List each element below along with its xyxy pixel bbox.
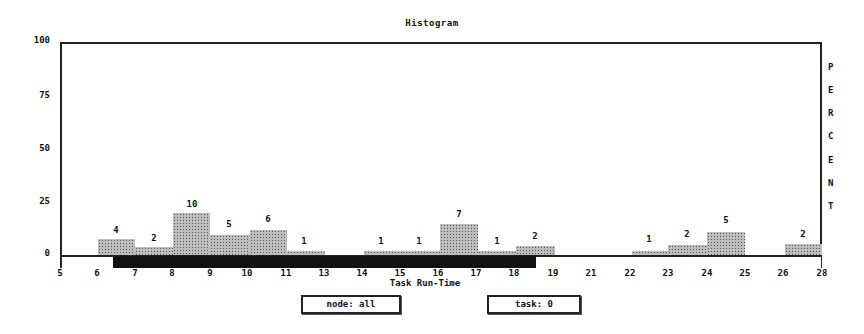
bar-count-label: 4: [97, 225, 135, 235]
histogram-bar: [440, 224, 478, 256]
x-tick: 13: [312, 268, 336, 278]
x-tick: 15: [388, 268, 412, 278]
ylabel-letter: E: [828, 85, 833, 95]
ylabel-letter: T: [828, 201, 833, 211]
x-tick: 25: [733, 268, 757, 278]
x-tick: 26: [771, 268, 795, 278]
histogram-bar: [173, 213, 210, 256]
x-axis-label: Task Run-Time: [360, 278, 490, 288]
histogram-bar: [250, 230, 287, 256]
bar-count-label: 6: [249, 214, 287, 224]
x-tick: 21: [579, 268, 603, 278]
y-tick-75: 75: [10, 90, 50, 100]
node-select-button[interactable]: node: all: [301, 295, 401, 314]
x-tick: 8: [160, 268, 184, 278]
x-tick: 6: [85, 268, 109, 278]
y-tick-25: 25: [10, 196, 50, 206]
y-tick-50: 50: [10, 143, 50, 153]
ylabel-letter: P: [828, 62, 833, 72]
histogram-bar: [668, 245, 707, 255]
histogram-bar: [785, 244, 822, 255]
y-tick-0: 0: [10, 248, 50, 258]
bar-count-label: 5: [707, 215, 745, 225]
range-strip-white-right: [536, 256, 821, 268]
ylabel-letter: N: [828, 178, 833, 188]
bar-count-label: 2: [135, 233, 173, 243]
x-tick: 11: [274, 268, 298, 278]
x-tick: 10: [235, 268, 259, 278]
x-tick: 14: [350, 268, 374, 278]
range-strip-white-left: [62, 256, 113, 268]
bar-count-label: 1: [400, 236, 438, 246]
bar-count-label: 2: [516, 231, 554, 241]
range-strip-black: [113, 256, 536, 268]
task-select-button[interactable]: task: 0: [487, 295, 581, 314]
histogram-bar: [98, 239, 135, 256]
x-tick: 19: [541, 268, 565, 278]
x-tick: 23: [656, 268, 680, 278]
ylabel-letter: E: [828, 155, 833, 165]
x-tick: 24: [695, 268, 719, 278]
x-tick: 9: [198, 268, 222, 278]
bar-count-label: 1: [285, 236, 323, 246]
x-tick: 7: [123, 268, 147, 278]
bar-count-label: 2: [784, 229, 822, 239]
bar-count-label: 2: [668, 229, 706, 239]
chart-title: Histogram: [0, 18, 864, 28]
x-tick: 18: [502, 268, 526, 278]
histogram-bar: [210, 235, 250, 256]
x-tick: 17: [464, 268, 488, 278]
bar-count-label: 1: [630, 234, 668, 244]
y-tick-100: 100: [10, 35, 50, 45]
x-tick: 16: [426, 268, 450, 278]
ylabel-letter: C: [828, 131, 833, 141]
x-tick: 22: [618, 268, 642, 278]
bar-count-label: 7: [440, 209, 478, 219]
x-tick: 28: [810, 268, 834, 278]
histogram-bar: [707, 232, 745, 255]
bar-count-label: 10: [173, 199, 211, 209]
bar-count-label: 1: [362, 236, 400, 246]
bar-count-label: 1: [478, 236, 516, 246]
ylabel-letter: R: [828, 108, 833, 118]
bar-count-label: 5: [210, 219, 248, 229]
x-tick: 5: [48, 268, 72, 278]
